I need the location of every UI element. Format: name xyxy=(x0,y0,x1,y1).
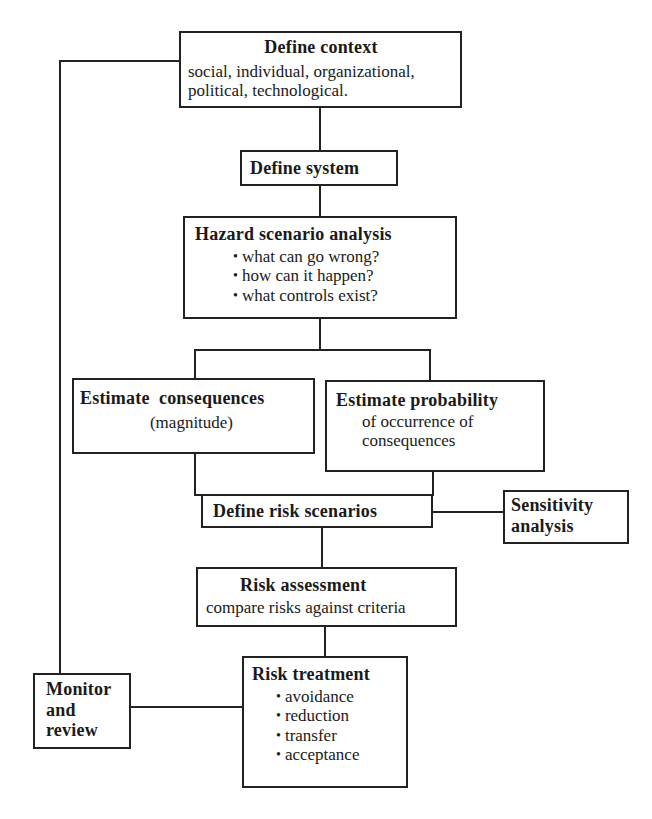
define-risk-scenarios-title: Define risk scenarios xyxy=(213,501,431,522)
risk-treatment-bullets: avoidance reduction transfer acceptance xyxy=(276,687,406,765)
node-monitor-review: Monitor and review xyxy=(33,673,131,749)
hazard-bullet: how can it happen? xyxy=(233,266,455,286)
risk-assessment-text: compare risks against criteria xyxy=(206,598,455,618)
node-hazard-analysis: Hazard scenario analysis what can go wro… xyxy=(183,216,457,319)
estimate-consequences-title: Estimate consequences xyxy=(80,388,313,409)
hazard-analysis-bullets: what can go wrong? how can it happen? wh… xyxy=(233,247,455,306)
hazard-analysis-title: Hazard scenario analysis xyxy=(195,224,455,245)
monitor-review-line3: review xyxy=(46,720,129,741)
estimate-probability-line1: of occurrence of xyxy=(336,412,543,432)
treatment-bullet: acceptance xyxy=(276,745,406,765)
hazard-bullet: what controls exist? xyxy=(233,286,455,306)
monitor-review-line1: Monitor xyxy=(46,679,129,700)
estimate-consequences-text: (magnitude) xyxy=(80,413,313,433)
sensitivity-analysis-line1: Sensitivity xyxy=(511,495,627,516)
treatment-bullet: avoidance xyxy=(276,687,406,707)
treatment-bullet: reduction xyxy=(276,706,406,726)
treatment-bullet: transfer xyxy=(276,726,406,746)
hazard-bullet: what can go wrong? xyxy=(233,247,455,267)
define-system-title: Define system xyxy=(250,158,396,179)
define-context-line2: political, technological. xyxy=(188,81,454,101)
node-risk-assessment: Risk assessment compare risks against cr… xyxy=(196,567,457,627)
define-context-line1: social, individual, organizational, xyxy=(188,62,454,82)
risk-assessment-title: Risk assessment xyxy=(206,575,455,596)
node-define-context: Define context social, individual, organ… xyxy=(179,31,462,108)
estimate-probability-title: Estimate probability xyxy=(336,390,543,411)
risk-treatment-title: Risk treatment xyxy=(252,664,406,685)
node-define-risk-scenarios: Define risk scenarios xyxy=(201,494,433,528)
split-bracket xyxy=(195,350,430,380)
node-define-system: Define system xyxy=(240,150,398,186)
node-sensitivity-analysis: Sensitivity analysis xyxy=(503,490,629,544)
node-estimate-consequences: Estimate consequences (magnitude) xyxy=(72,378,315,454)
edge-monitor-context-loop xyxy=(60,61,179,673)
monitor-review-line2: and xyxy=(46,700,129,721)
sensitivity-analysis-line2: analysis xyxy=(511,516,627,537)
node-risk-treatment: Risk treatment avoidance reduction trans… xyxy=(242,656,408,788)
estimate-probability-line2: consequences xyxy=(336,431,543,451)
define-context-title: Define context xyxy=(188,37,454,58)
node-estimate-probability: Estimate probability of occurrence of co… xyxy=(325,380,545,472)
